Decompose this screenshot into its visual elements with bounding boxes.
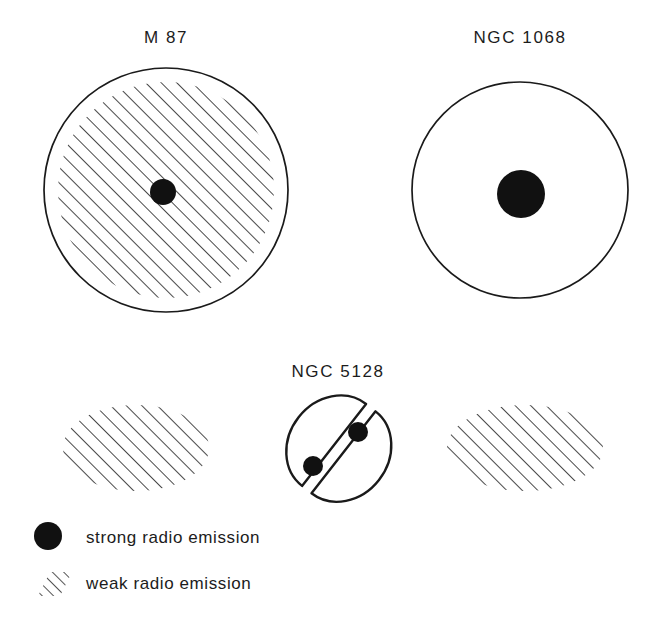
lobe-right-weak-emission [447, 405, 603, 491]
object-ngc1068 [412, 82, 628, 298]
object-label-ngc5128: NGC 5128 [238, 362, 438, 382]
object-m87 [44, 68, 288, 312]
legend-strong-swatch [34, 522, 62, 550]
ngc5128-halves [267, 376, 411, 521]
object-label-ngc1068: NGC 1068 [420, 28, 620, 48]
legend-swatches [34, 522, 72, 596]
ngc1068-strong-emission-core [497, 170, 545, 218]
ngc5128-strong-emission-core-lower [303, 456, 323, 476]
m87-strong-emission-core [150, 179, 176, 205]
legend-weak-swatch [38, 572, 72, 596]
object-label-m87: M 87 [66, 28, 266, 48]
ngc5128-lobe-right [447, 405, 603, 491]
object-ngc5128 [267, 376, 411, 521]
ngc5128-strong-emission-core-upper [348, 422, 368, 442]
legend-strong-label: strong radio emission [86, 528, 260, 548]
legend-weak-label: weak radio emission [86, 574, 251, 594]
radio-galaxy-diagram: M 87 NGC 1068 NGC 5128 strong radio emis… [0, 0, 658, 628]
ngc5128-lobe-left [63, 405, 209, 491]
lobe-left-weak-emission [63, 405, 209, 491]
